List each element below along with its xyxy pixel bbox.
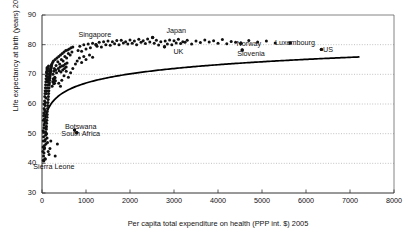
data-point: [63, 74, 66, 77]
data-point: [85, 58, 88, 61]
data-point: [48, 147, 51, 150]
data-point: [157, 43, 160, 46]
data-point: [184, 41, 187, 44]
data-point: [43, 103, 46, 106]
data-point: [153, 42, 156, 45]
data-point: [115, 39, 118, 42]
data-point: [47, 65, 50, 68]
x-axis-label: Per capita total expenditure on health (…: [42, 219, 394, 228]
data-point: [78, 45, 81, 48]
data-point: [69, 71, 72, 74]
data-point: [43, 95, 46, 98]
data-point-labeled: [151, 36, 154, 39]
data-point: [111, 40, 114, 43]
data-point: [45, 132, 48, 135]
data-point: [87, 43, 90, 46]
x-tick-label: 4000: [198, 196, 238, 205]
x-tick-label: 8000: [374, 196, 408, 205]
data-point: [71, 46, 74, 49]
data-point: [43, 100, 46, 103]
y-tick-label: 80: [14, 40, 36, 49]
trend-line: [44, 57, 359, 126]
data-point-labeled: [43, 157, 46, 160]
data-point: [55, 64, 58, 67]
data-point: [164, 40, 167, 43]
data-point: [91, 56, 94, 59]
data-point: [57, 82, 60, 85]
data-point: [148, 41, 151, 44]
data-point: [47, 150, 50, 153]
data-point: [82, 55, 85, 58]
data-point: [199, 41, 202, 44]
data-point: [146, 38, 149, 41]
data-point: [173, 39, 176, 42]
data-point: [66, 62, 69, 65]
data-point: [42, 129, 45, 132]
data-point: [43, 123, 46, 126]
data-point: [135, 43, 138, 46]
data-point: [42, 111, 45, 114]
data-point: [41, 150, 44, 153]
data-point: [190, 43, 193, 46]
data-point: [155, 39, 158, 42]
data-point: [77, 49, 80, 52]
data-point: [225, 42, 228, 45]
x-tick-label: 1000: [66, 196, 106, 205]
y-tick-label: 90: [14, 10, 36, 19]
point-label-slovenia: Slovenia: [237, 49, 265, 58]
data-point: [85, 48, 88, 51]
data-point: [80, 61, 83, 64]
data-point: [208, 41, 211, 44]
data-point: [44, 83, 47, 86]
data-point: [159, 40, 162, 43]
data-point: [144, 42, 147, 45]
y-tick-label: 70: [14, 69, 36, 78]
data-point: [107, 40, 110, 43]
point-label-norway: Norway: [237, 39, 261, 48]
y-tick-label: 60: [14, 99, 36, 108]
data-point: [42, 140, 45, 143]
data-point: [76, 59, 79, 62]
data-point: [54, 154, 57, 157]
data-point: [166, 43, 169, 46]
point-label-south-africa: South Africa: [61, 129, 100, 138]
chart-figure: Life expectancy at birth (years) 2006 Pe…: [0, 0, 408, 234]
data-point: [221, 38, 224, 41]
data-point: [82, 43, 85, 46]
data-point: [91, 42, 94, 45]
data-point: [58, 62, 61, 65]
data-point: [70, 51, 73, 54]
data-point: [124, 40, 127, 43]
point-label-luxembourg: Luxembourg: [275, 38, 315, 47]
data-point: [46, 116, 49, 119]
data-point: [42, 126, 45, 129]
data-point: [42, 119, 45, 122]
x-tick-label: 7000: [330, 196, 370, 205]
data-point: [46, 137, 49, 140]
data-point: [43, 107, 46, 110]
data-point: [50, 65, 53, 68]
data-point: [203, 38, 206, 41]
data-point: [52, 73, 55, 76]
data-point: [59, 85, 62, 88]
data-point: [65, 65, 68, 68]
data-point: [212, 39, 215, 42]
data-point: [60, 79, 63, 82]
data-point: [80, 50, 83, 53]
data-point: [118, 43, 121, 46]
data-point: [47, 70, 50, 73]
data-point: [55, 71, 58, 74]
data-point: [46, 76, 49, 79]
data-point: [133, 40, 136, 43]
data-point: [186, 39, 189, 42]
data-point: [65, 57, 68, 60]
data-point: [129, 38, 132, 41]
data-point: [74, 62, 77, 65]
x-tick-label: 3000: [154, 196, 194, 205]
x-tick-label: 2000: [110, 196, 150, 205]
data-point: [42, 146, 45, 149]
data-point: [44, 86, 47, 89]
point-label-japan: Japan: [166, 26, 186, 35]
x-tick-label: 0: [22, 196, 62, 205]
data-point: [88, 54, 91, 57]
